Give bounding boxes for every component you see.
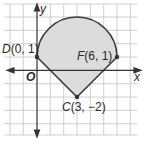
label-c: C(3, −2) bbox=[62, 100, 106, 114]
label-d-coords: (0, 1) bbox=[11, 42, 39, 56]
label-d-name: D bbox=[2, 42, 11, 56]
label-c-coords: (3, −2) bbox=[71, 100, 106, 114]
label-f-coords: (6, 1) bbox=[84, 49, 112, 63]
label-c-name: C bbox=[62, 100, 71, 114]
x-axis-label: x bbox=[133, 70, 141, 84]
y-axis-label: y bbox=[39, 2, 47, 16]
label-f: F(6, 1) bbox=[77, 49, 112, 63]
point-f bbox=[115, 55, 119, 59]
coordinate-plane: y x O D(0, 1) F(6, 1) C(3, −2) bbox=[0, 0, 143, 141]
label-d: D(0, 1) bbox=[2, 42, 39, 56]
origin-label: O bbox=[26, 70, 36, 84]
point-c bbox=[75, 95, 79, 99]
